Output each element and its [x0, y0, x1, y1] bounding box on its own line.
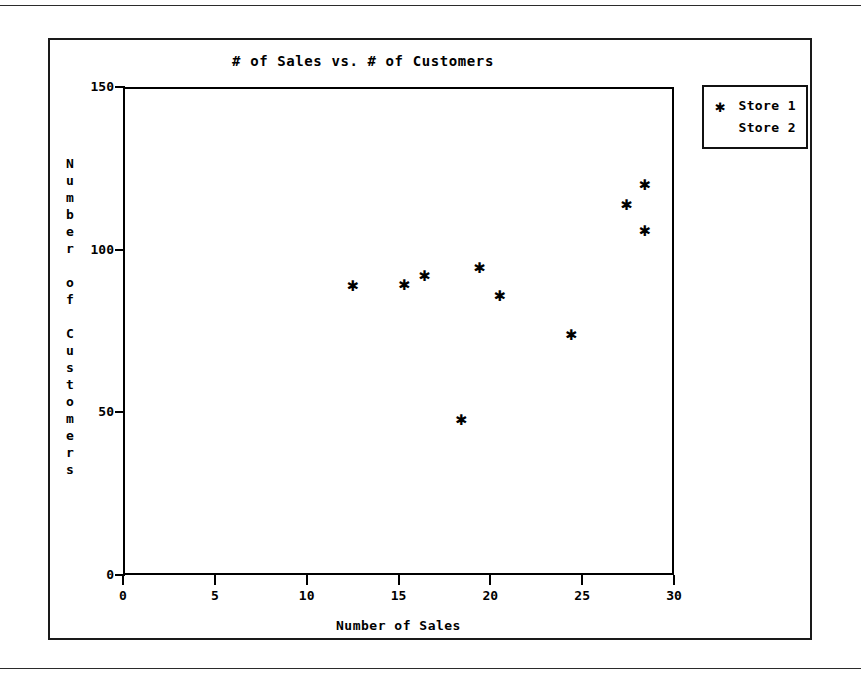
y-axis-title-char: N — [62, 155, 78, 172]
data-point: ✱ — [637, 175, 653, 191]
x-axis-tick-label: 5 — [195, 588, 235, 603]
x-axis-tick-label: 30 — [654, 588, 694, 603]
y-axis-title-char: t — [62, 376, 78, 393]
y-axis-tick-label: 100 — [64, 242, 114, 257]
y-axis-title-char: f — [62, 291, 78, 308]
x-axis-tick — [581, 575, 583, 585]
data-point: ✱ — [637, 221, 653, 237]
y-axis-tick-label: 0 — [64, 567, 114, 582]
legend-label-store-2: Store 2 — [728, 117, 796, 139]
x-axis-tick-label: 0 — [103, 588, 143, 603]
data-point: ✱ — [416, 266, 432, 282]
x-axis-tick — [673, 575, 675, 585]
y-axis-title-char: s — [62, 461, 78, 478]
scatter-data-layer: ✱✱✱✱✱✱✱✱✱✱ — [125, 89, 672, 573]
data-point: ✱ — [453, 410, 469, 426]
x-axis-tick — [398, 575, 400, 585]
x-axis-tick-label: 20 — [470, 588, 510, 603]
y-axis-title: Number of Customers — [62, 155, 78, 478]
chart-legend: ✱ Store 1 Store 2 — [702, 85, 808, 149]
x-axis-tick-label: 25 — [562, 588, 602, 603]
y-axis-tick-label: 50 — [64, 404, 114, 419]
y-axis-title-char: r — [62, 444, 78, 461]
x-axis-tick — [122, 575, 124, 585]
x-axis-tick-label: 10 — [287, 588, 327, 603]
y-axis-tick — [115, 411, 125, 413]
y-axis-title-char: u — [62, 342, 78, 359]
chart-frame: # of Sales vs. # of Customers Number of … — [48, 38, 812, 640]
y-axis-tick — [115, 86, 125, 88]
y-axis-tick — [115, 249, 125, 251]
data-point: ✱ — [396, 275, 412, 291]
y-axis-title-char: C — [62, 325, 78, 342]
chart-title: # of Sales vs. # of Customers — [50, 53, 676, 69]
page-rule-bottom — [0, 668, 861, 669]
legend-marker-store-1: ✱ — [712, 95, 728, 117]
legend-entry-store-1[interactable]: ✱ Store 1 — [712, 95, 796, 117]
x-axis-tick — [306, 575, 308, 585]
y-axis-title-char: e — [62, 427, 78, 444]
data-point: ✱ — [618, 195, 634, 211]
y-axis-title-char: e — [62, 223, 78, 240]
x-axis-title: Number of Sales — [123, 618, 674, 633]
y-axis-title-char: b — [62, 206, 78, 223]
legend-entry-store-2[interactable]: Store 2 — [712, 117, 796, 139]
page-rule-top — [0, 5, 861, 6]
y-axis-title-char: o — [62, 274, 78, 291]
data-point: ✱ — [345, 276, 361, 292]
x-axis-tick — [214, 575, 216, 585]
data-point: ✱ — [492, 286, 508, 302]
y-axis-title-char: u — [62, 172, 78, 189]
data-point: ✱ — [471, 258, 487, 274]
plot-area: ✱✱✱✱✱✱✱✱✱✱ — [123, 87, 674, 575]
x-axis-tick-label: 15 — [379, 588, 419, 603]
y-axis-title-char: s — [62, 359, 78, 376]
y-axis-title-char: m — [62, 189, 78, 206]
x-axis-tick — [489, 575, 491, 585]
y-axis-tick-label: 150 — [64, 79, 114, 94]
legend-label-store-1: Store 1 — [728, 95, 796, 117]
data-point: ✱ — [563, 325, 579, 341]
